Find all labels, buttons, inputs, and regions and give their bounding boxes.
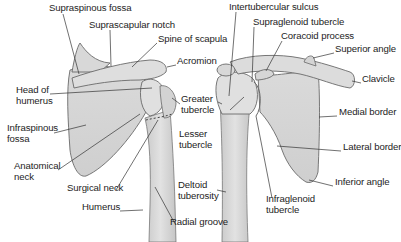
label-line: Lesser <box>179 128 212 139</box>
label-superior-angle: Superior angle <box>335 43 396 54</box>
label-line: Infraspinous <box>7 122 58 133</box>
label-line: Supraglenoid tubercle <box>253 16 344 27</box>
label-deltoid-tuberosity: Deltoidtuberosity <box>178 179 219 201</box>
label-line: Anatomical <box>14 160 60 171</box>
label-line: Radial groove <box>170 216 228 227</box>
label-humerus: Humerus <box>82 201 120 212</box>
label-line: Infraglenoid <box>266 193 315 204</box>
label-line: humerus <box>16 95 53 106</box>
label-infraspinous-fossa: Infraspinousfossa <box>7 122 58 144</box>
label-inferior-angle: Inferior angle <box>335 176 390 187</box>
label-suprascapular-notch: Suprascapular notch <box>89 19 175 30</box>
label-line: Supraspinous fossa <box>49 2 131 13</box>
anterior-humerus-head <box>216 72 258 114</box>
label-medial-border: Medial border <box>339 106 396 117</box>
label-clavicle: Clavicle <box>362 73 395 84</box>
label-line: Acromion <box>177 55 217 66</box>
posterior-view <box>68 43 176 242</box>
label-line: Inferior angle <box>335 176 390 187</box>
label-line: Greater <box>181 93 214 104</box>
anterior-acromion <box>217 64 235 76</box>
label-line: Medial border <box>339 106 396 117</box>
label-radial-groove: Radial groove <box>170 216 228 227</box>
label-intertubercular-sulcus: Intertubercular sulcus <box>229 1 319 12</box>
label-line: tuberosity <box>178 190 219 201</box>
label-infraglenoid-tubercle: Infraglenoidtubercle <box>266 193 315 215</box>
label-line: tubercle <box>179 139 212 150</box>
label-line: Coracoid process <box>281 30 354 41</box>
label-line: Clavicle <box>362 73 395 84</box>
label-supraglenoid-tubercle: Supraglenoid tubercle <box>253 16 344 27</box>
label-head-of-humerus: Head ofhumerus <box>16 84 53 106</box>
label-line: fossa <box>7 133 58 144</box>
label-greater-tubercle: Greatertubercle <box>181 93 214 115</box>
label-line: Spine of scapula <box>158 33 227 44</box>
label-line: Deltoid <box>178 179 219 190</box>
label-lesser-tubercle: Lessertubercle <box>179 128 212 150</box>
label-line: Superior angle <box>335 43 396 54</box>
label-line: neck <box>14 171 60 182</box>
label-line: tubercle <box>181 104 214 115</box>
label-line: Head of <box>16 84 53 95</box>
label-anatomical-neck: Anatomicalneck <box>14 160 60 182</box>
label-line: Intertubercular sulcus <box>229 1 319 12</box>
label-spine-of-scapula: Spine of scapula <box>158 33 227 44</box>
label-line: Surgical neck <box>67 182 123 193</box>
label-line: Humerus <box>82 201 120 212</box>
label-supraspinous-fossa: Supraspinous fossa <box>49 2 131 13</box>
anterior-scapula-blade <box>258 70 320 183</box>
label-lateral-border: Lateral border <box>343 141 401 152</box>
label-surgical-neck: Surgical neck <box>67 182 123 193</box>
label-acromion: Acromion <box>177 55 217 66</box>
label-coracoid-process: Coracoid process <box>281 30 354 41</box>
label-line: Suprascapular notch <box>89 19 175 30</box>
label-line: tubercle <box>266 204 315 215</box>
label-line: Lateral border <box>343 141 401 152</box>
